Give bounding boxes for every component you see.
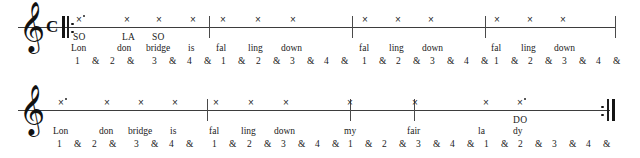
beat-count: 4 xyxy=(586,140,591,150)
lyric-syllable: ling xyxy=(389,44,404,54)
lyric-syllable: my xyxy=(344,127,356,137)
barline xyxy=(207,99,208,121)
beat-count: & xyxy=(332,140,339,150)
lyric-syllable: Lon xyxy=(53,127,68,137)
beat-count: & xyxy=(365,140,372,150)
beat-count: 1 xyxy=(221,57,226,67)
notehead-x: × xyxy=(213,98,219,108)
lyric-syllable: bridge xyxy=(146,44,170,54)
barline xyxy=(209,16,210,38)
start-repeat-thick-barline xyxy=(62,16,65,38)
beat-count: & xyxy=(379,57,386,67)
lyric-syllable: Lon xyxy=(71,44,86,54)
lyric-syllable: is xyxy=(170,127,176,137)
beat-count: & xyxy=(307,57,314,67)
beat-count: & xyxy=(603,140,610,150)
beat-count: 4 xyxy=(450,140,455,150)
treble-clef-icon: 𝄞 xyxy=(19,87,45,131)
notehead-x: × xyxy=(104,98,110,108)
beat-count: 4 xyxy=(169,140,174,150)
beat-count: 2 xyxy=(382,140,387,150)
beat-count: 2 xyxy=(110,57,115,67)
repeat-dot xyxy=(601,114,604,117)
lyric-syllable: fal xyxy=(209,127,219,137)
beat-count: & xyxy=(92,57,99,67)
beat-count: 1 xyxy=(348,140,353,150)
solfege-label: DO xyxy=(513,116,527,126)
staff-line xyxy=(18,110,610,111)
beat-count: & xyxy=(273,57,280,67)
beat-count: 3 xyxy=(430,57,435,67)
beat-count: 1 xyxy=(57,140,62,150)
beat-count: & xyxy=(413,57,420,67)
beat-count: & xyxy=(238,57,245,67)
solfege-label: SO xyxy=(152,33,165,43)
notehead-x: × xyxy=(362,15,368,25)
time-signature: C xyxy=(46,18,58,35)
beat-count: & xyxy=(467,140,474,150)
barline xyxy=(352,16,353,38)
augmentation-dot xyxy=(83,15,85,17)
staff-line xyxy=(18,27,616,28)
lyric-syllable: ling xyxy=(241,127,256,137)
beat-count: & xyxy=(481,57,488,67)
lyric-syllable: bridge xyxy=(128,127,152,137)
beat-count: 1 xyxy=(484,140,489,150)
notehead-x: × xyxy=(517,98,526,108)
lyric-syllable: dy xyxy=(513,127,523,137)
beat-count: & xyxy=(264,140,271,150)
lyric-syllable: ling xyxy=(248,44,263,54)
beat-count: 3 xyxy=(281,140,286,150)
beat-count: 3 xyxy=(562,57,567,67)
beat-count: & xyxy=(186,140,193,150)
beat-count: & xyxy=(579,57,586,67)
notehead-x: × xyxy=(255,15,261,25)
beat-count: 2 xyxy=(396,57,401,67)
notehead-x: × xyxy=(156,15,162,25)
beat-count: 3 xyxy=(416,140,421,150)
notehead-x: × xyxy=(395,15,401,25)
beat-count: & xyxy=(229,140,236,150)
beat-count: & xyxy=(127,57,134,67)
augmentation-dot xyxy=(524,98,526,100)
end-repeat-thick-barline xyxy=(612,99,615,121)
beat-count: 2 xyxy=(256,57,261,67)
beat-count: & xyxy=(545,57,552,67)
beat-count: & xyxy=(433,140,440,150)
beat-count: & xyxy=(535,140,542,150)
lyric-syllable: fal xyxy=(216,44,226,54)
lyric-syllable: is xyxy=(188,44,194,54)
notehead-x: × xyxy=(527,15,533,25)
notehead-x: × xyxy=(428,15,434,25)
lyric-syllable: down xyxy=(422,44,443,54)
start-repeat-thin-barline xyxy=(67,16,69,38)
notehead-x: × xyxy=(138,98,144,108)
notehead-x: × xyxy=(76,15,85,25)
notehead-x: × xyxy=(124,15,130,25)
notehead-x: × xyxy=(560,15,566,25)
notehead-x: × xyxy=(172,98,178,108)
beat-count: 4 xyxy=(596,57,601,67)
notehead-x: × xyxy=(248,98,254,108)
music-sheet: 𝄞C×××××××××××××SOLASOLondonbridgeisfalli… xyxy=(0,0,640,158)
beat-count: & xyxy=(109,140,116,150)
beat-count: & xyxy=(511,57,518,67)
barline xyxy=(485,16,486,38)
beat-count: 2 xyxy=(247,140,252,150)
lyric-syllable: fair xyxy=(407,127,420,137)
beat-count: & xyxy=(204,57,211,67)
beat-count: 3 xyxy=(134,140,139,150)
beat-count: 4 xyxy=(464,57,469,67)
notehead-x: × xyxy=(412,98,418,108)
beat-count: & xyxy=(501,140,508,150)
end-repeat-thin-barline xyxy=(607,99,609,121)
beat-count: 1 xyxy=(494,57,499,67)
solfege-label: LA xyxy=(122,33,135,43)
beat-count: & xyxy=(399,140,406,150)
repeat-dot xyxy=(601,106,604,109)
beat-count: 1 xyxy=(212,140,217,150)
barline xyxy=(615,16,616,38)
beat-count: 4 xyxy=(315,140,320,150)
beat-count: 2 xyxy=(92,140,97,150)
beat-count: 3 xyxy=(152,57,157,67)
